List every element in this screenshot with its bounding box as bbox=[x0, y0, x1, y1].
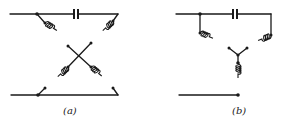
panel-label-a: (a) bbox=[63, 105, 77, 116]
lead bbox=[229, 48, 238, 55]
inductor-icon bbox=[236, 64, 241, 78]
node bbox=[36, 93, 40, 97]
circuit-diagram: (a) bbox=[0, 0, 286, 125]
node bbox=[35, 12, 39, 16]
node bbox=[90, 42, 93, 45]
inductor-icon bbox=[101, 19, 115, 32]
lead bbox=[37, 14, 45, 23]
capacitor-icon bbox=[74, 9, 78, 19]
panel-a: (a) bbox=[10, 9, 118, 116]
inductor-icon bbox=[199, 30, 214, 40]
lead bbox=[238, 48, 247, 55]
panel-label-b: (b) bbox=[232, 105, 246, 116]
panel-b: (b) bbox=[176, 9, 273, 116]
inductor-icon bbox=[44, 20, 59, 32]
capacitor-icon bbox=[233, 9, 237, 19]
lead bbox=[113, 88, 118, 95]
inductor-icon bbox=[56, 65, 70, 78]
inductor-icon bbox=[90, 65, 104, 78]
